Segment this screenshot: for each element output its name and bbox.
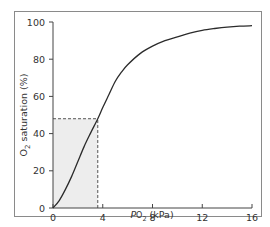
y-axis-label: O2 saturation (%)	[18, 74, 32, 157]
figure-frame	[15, 12, 262, 217]
y-tick-label: 20	[33, 165, 45, 176]
y-tick-label: 0	[39, 203, 45, 214]
plot-area: 0204060801000481216	[27, 17, 258, 224]
y-tick-label: 100	[27, 17, 45, 28]
x-tick-label: 4	[100, 212, 106, 223]
x-tick-label: 12	[196, 212, 208, 223]
y-tick-label: 40	[33, 128, 45, 139]
y-tick-label: 60	[33, 91, 45, 102]
x-tick-label: 0	[50, 212, 56, 223]
y-tick-label: 80	[33, 54, 45, 65]
oxygen-dissociation-chart: 0204060801000481216 O2 saturation (%) PO…	[0, 0, 270, 227]
chart-canvas: 0204060801000481216 O2 saturation (%) PO…	[0, 0, 270, 227]
x-tick-label: 16	[246, 212, 258, 223]
